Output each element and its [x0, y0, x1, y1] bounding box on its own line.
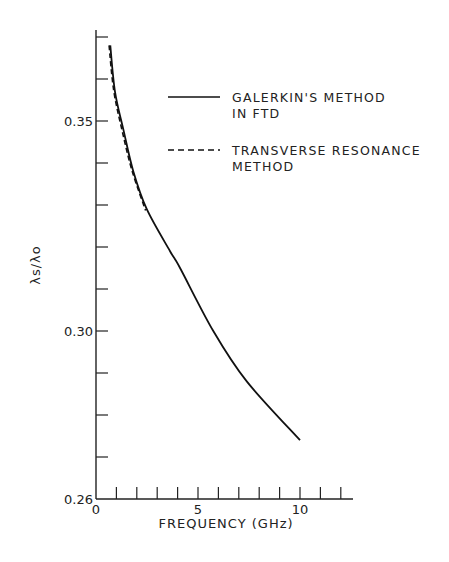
series-transverse-resonance: [109, 45, 146, 210]
chart: 0.260.300.350510FREQUENCY (GHz)λs/λo GAL…: [0, 0, 449, 562]
legend-label: GALERKIN'S METHOD: [232, 90, 386, 105]
axes: 0.260.300.350510FREQUENCY (GHz)λs/λo: [28, 30, 353, 531]
x-tick-label: 0: [92, 502, 100, 517]
x-axis-title: FREQUENCY (GHz): [158, 516, 293, 531]
y-tick-label: 0.35: [64, 114, 93, 129]
legend-label: TRANSVERSE RESONANCE: [231, 143, 421, 158]
x-tick-label: 5: [194, 502, 202, 517]
legend-label: IN FTD: [232, 106, 280, 121]
y-axis-title: λs/λo: [28, 245, 43, 285]
y-tick-label: 0.30: [64, 324, 93, 339]
legend-label: METHOD: [232, 159, 294, 174]
x-tick-label: 10: [292, 502, 309, 517]
y-tick-label: 0.26: [64, 492, 93, 507]
legend: GALERKIN'S METHODIN FTDTRANSVERSE RESONA…: [168, 90, 421, 174]
